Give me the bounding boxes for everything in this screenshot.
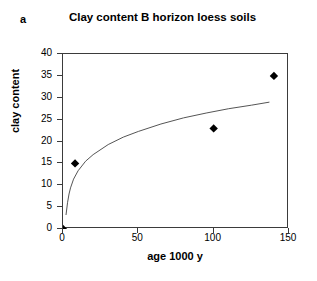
y-axis-tick-label: 35: [26, 70, 52, 80]
x-axis-tick-mark: [288, 228, 289, 233]
y-axis-tick-label: 0: [26, 223, 52, 233]
x-axis-tick-mark: [137, 228, 138, 233]
chart-title: Clay content B horizon loess soils: [55, 10, 270, 24]
x-axis-tick-label: 150: [268, 233, 308, 243]
y-axis-tick-label: 20: [26, 136, 52, 146]
plot-area: [62, 53, 288, 228]
x-axis-tick-mark: [213, 228, 214, 233]
x-axis-tick-label: 0: [42, 233, 82, 243]
trendline: [66, 102, 269, 215]
data-point-marker: [71, 159, 79, 167]
y-axis-tick-label: 10: [26, 179, 52, 189]
y-axis-tick-label: 25: [26, 114, 52, 124]
y-axis-tick-label: 30: [26, 92, 52, 102]
data-point-marker: [270, 72, 278, 80]
y-axis-label: clay content: [9, 51, 21, 151]
x-axis-tick-label: 50: [117, 233, 157, 243]
y-axis-tick-label: 40: [26, 48, 52, 58]
chart-figure: a Clay content B horizon loess soils cla…: [0, 0, 317, 281]
y-axis-tick-label: 5: [26, 201, 52, 211]
x-axis-tick-label: 100: [193, 233, 233, 243]
x-axis-tick-mark: [62, 228, 63, 233]
plot-svg: [63, 54, 289, 229]
panel-label: a: [20, 13, 26, 25]
y-axis-tick-label: 15: [26, 157, 52, 167]
data-point-marker: [209, 124, 217, 132]
data-point-marker: [63, 225, 67, 229]
x-axis-label: age 1000 y: [62, 250, 288, 262]
